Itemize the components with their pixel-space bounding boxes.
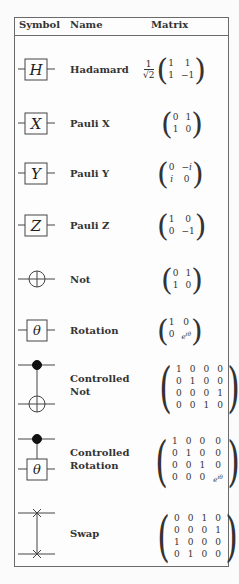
gate-name: Rotation bbox=[70, 324, 118, 337]
prefactor: 1 √2 bbox=[143, 59, 154, 80]
hadamard-label: H bbox=[28, 61, 43, 79]
gate-matrix: ( 01 10 ) bbox=[161, 263, 203, 295]
gate-matrix: ( 01 10 ) bbox=[161, 107, 203, 139]
not-gate-icon bbox=[18, 271, 55, 287]
controlled-not-gate-icon bbox=[18, 361, 55, 413]
gate-matrix: ( 1000 0100 0001 0010 ) bbox=[155, 359, 239, 415]
swap-gate-icon bbox=[18, 509, 55, 558]
gate-matrix: ( 10 0−1 ) bbox=[157, 209, 206, 241]
quantum-gates-table: Symbol Name Matrix bbox=[14, 17, 229, 567]
gate-name: Pauli Z bbox=[70, 219, 109, 232]
controlled-rotation-label: θ bbox=[33, 462, 41, 477]
gate-name: Hadamard bbox=[70, 63, 129, 76]
gate-matrix: ( 0010 0001 1000 0100 ) bbox=[153, 508, 239, 564]
pauli-z-label: Z bbox=[30, 217, 42, 235]
gate-name: ControlledNot bbox=[70, 372, 129, 398]
gate-matrix: ( 10 0eiθ ) bbox=[157, 314, 203, 346]
gate-name: Swap bbox=[70, 527, 99, 540]
rotation-label: θ bbox=[33, 323, 41, 338]
gate-matrix: ( 0−i i0 ) bbox=[157, 157, 204, 189]
gate-matrix: ( 1000 0100 0010 000eiθ ) bbox=[151, 433, 239, 489]
gate-name: Pauli X bbox=[70, 117, 110, 130]
gate-name: ControlledRotation bbox=[70, 446, 129, 472]
gate-name: Pauli Y bbox=[70, 167, 109, 180]
gate-name: Not bbox=[70, 273, 90, 286]
gate-matrix: 1 √2 ( 11 1−1 ) bbox=[143, 53, 206, 85]
pauli-x-label: X bbox=[30, 115, 43, 133]
